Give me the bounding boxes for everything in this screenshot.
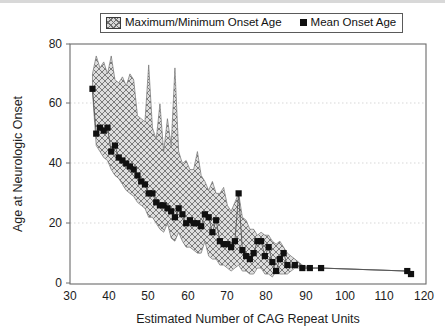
- mean-onset-marker: [408, 271, 414, 277]
- mean-onset-marker: [228, 244, 234, 250]
- mean-onset-marker: [266, 244, 272, 250]
- mean-onset-marker: [179, 211, 185, 217]
- x-axis-title: Estimated Number of CAG Repeat Units: [136, 312, 360, 326]
- hatched-band-swatch-icon: [106, 17, 121, 29]
- mean-onset-marker: [281, 250, 287, 256]
- mean-onset-marker: [213, 217, 219, 223]
- filled-square-marker-icon: [300, 19, 307, 26]
- mean-onset-marker: [318, 265, 324, 271]
- y-tick-label-80: 80: [49, 37, 63, 51]
- mean-onset-marker: [209, 229, 215, 235]
- mean-onset-marker: [269, 259, 275, 265]
- legend-item-mean: Mean Onset Age: [300, 16, 397, 29]
- y-tick-label-20: 20: [49, 216, 63, 230]
- x-tick-label-30: 30: [63, 289, 77, 303]
- legend-label-mean: Mean Onset Age: [311, 16, 397, 29]
- mean-onset-marker: [168, 208, 174, 214]
- mean-onset-marker: [307, 265, 313, 271]
- x-tick-label-90: 90: [299, 289, 313, 303]
- mean-onset-marker: [251, 250, 257, 256]
- y-tick-label-60: 60: [49, 96, 63, 110]
- chart-legend: Maximum/Minimum Onset Age Mean Onset Age: [100, 13, 403, 33]
- y-axis-title: Age at Neurologic Onset: [11, 95, 25, 232]
- mean-onset-marker: [89, 86, 95, 92]
- x-tick-label-120: 120: [414, 289, 434, 303]
- x-tick-labels: 30 40 50 60 70 80 90 100 110 120: [63, 289, 434, 303]
- mean-onset-marker: [284, 262, 290, 268]
- mean-onset-marker: [273, 268, 279, 274]
- mean-onset-marker: [112, 142, 118, 148]
- mean-onset-marker: [299, 265, 305, 271]
- mean-onset-marker: [239, 247, 245, 253]
- mean-onset-marker: [93, 131, 99, 137]
- mean-onset-marker: [258, 238, 264, 244]
- mean-onset-marker: [236, 190, 242, 196]
- x-tick-label-50: 50: [141, 289, 155, 303]
- mean-onset-marker: [149, 190, 155, 196]
- x-tick-label-100: 100: [335, 289, 355, 303]
- mean-onset-marker: [108, 148, 114, 154]
- x-tick-label-110: 110: [374, 289, 393, 303]
- mean-onset-marker: [292, 262, 298, 268]
- legend-item-range: Maximum/Minimum Onset Age: [106, 16, 282, 29]
- mean-onset-marker: [131, 166, 137, 172]
- mean-onset-marker: [134, 172, 140, 178]
- x-tick-label-40: 40: [102, 289, 116, 303]
- x-tick-label-80: 80: [259, 289, 273, 303]
- mean-onset-marker: [262, 253, 268, 259]
- onset-age-range-band: [92, 56, 411, 277]
- mean-onset-marker: [232, 238, 238, 244]
- figure-container: 80 60 40 20 0 30 40 50 60 70 80 90 100 1…: [0, 0, 445, 336]
- y-tick-label-40: 40: [49, 156, 63, 170]
- mean-onset-marker: [104, 125, 110, 131]
- mean-onset-marker: [206, 214, 212, 220]
- x-tick-label-70: 70: [220, 289, 234, 303]
- mean-onset-marker: [277, 256, 283, 262]
- y-tick-labels: 80 60 40 20 0: [49, 37, 63, 290]
- mean-onset-marker: [172, 214, 178, 220]
- y-tick-label-0: 0: [55, 276, 62, 290]
- mean-onset-marker: [247, 256, 253, 262]
- y-axis-ticks: [66, 44, 70, 283]
- x-tick-label-60: 60: [181, 289, 195, 303]
- chart-canvas: 80 60 40 20 0 30 40 50 60 70 80 90 100 1…: [0, 0, 445, 336]
- legend-label-range: Maximum/Minimum Onset Age: [125, 16, 282, 29]
- mean-onset-marker: [176, 205, 182, 211]
- mean-onset-marker: [142, 181, 148, 187]
- mean-onset-marker: [198, 223, 204, 229]
